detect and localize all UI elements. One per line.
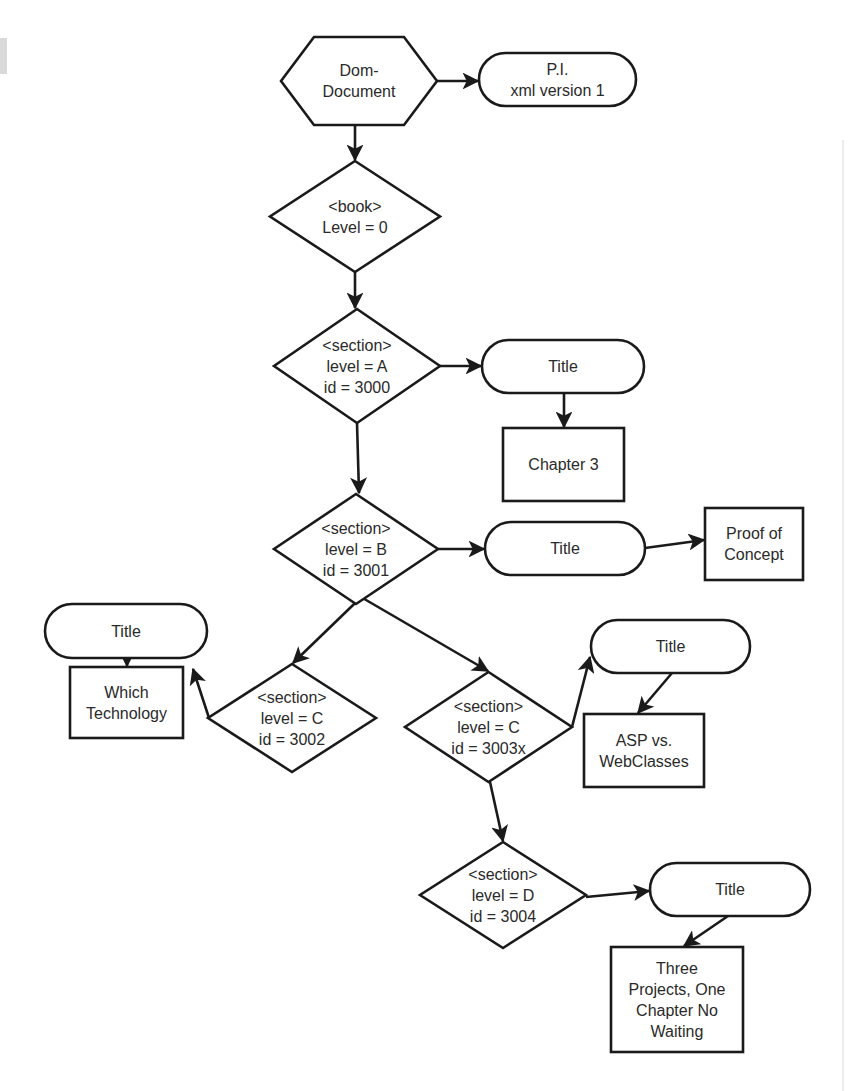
node-ch3: Chapter 3 <box>503 428 624 501</box>
node-secD: <section>level = Did = 3004 <box>420 842 586 948</box>
node-threeProj: ThreeProjects, OneChapter NoWaiting <box>611 947 743 1052</box>
node-label-line: Title <box>550 540 580 557</box>
node-label-line: id = 3002 <box>259 731 325 748</box>
node-label-line: WebClasses <box>599 753 689 770</box>
node-label-line: <book> <box>328 198 381 215</box>
rect-shape <box>584 714 704 787</box>
node-label-line: Document <box>323 83 396 100</box>
node-label-line: <section> <box>257 689 326 706</box>
node-asp: ASP vs.WebClasses <box>584 714 704 787</box>
node-label-line: Title <box>656 638 686 655</box>
arrow-secC2-to-secD <box>490 782 503 841</box>
node-label-line: level = B <box>325 541 387 558</box>
node-label-line: Which <box>104 684 148 701</box>
node-label-line: Projects, One <box>629 981 726 998</box>
node-titleD: Title <box>650 863 810 916</box>
arrow-titleC2-to-asp <box>638 673 672 713</box>
arrow-titleD-to-threeProj <box>684 916 728 946</box>
node-label-line: level = D <box>472 887 535 904</box>
arrow-secA-to-secB <box>357 423 359 493</box>
node-label-line: <section> <box>321 520 390 537</box>
node-whichTech: WhichTechnology <box>70 667 183 738</box>
node-label-line: Level = 0 <box>322 219 387 236</box>
node-label-line: Chapter No <box>636 1002 718 1019</box>
node-secC2: <section>level = Cid = 3003x <box>405 672 572 782</box>
node-label-line: Concept <box>724 546 784 563</box>
node-label-line: Chapter 3 <box>528 456 598 473</box>
hexagon-shape <box>281 37 437 125</box>
node-label-line: level = A <box>327 358 388 375</box>
node-label-line: Proof of <box>726 525 783 542</box>
node-label-line: level = C <box>457 719 520 736</box>
arrow-secC1-to-titleC1 <box>193 669 209 718</box>
node-label-line: id = 3003x <box>451 740 525 757</box>
node-label-line: Technology <box>86 705 167 722</box>
rect-shape <box>705 508 803 580</box>
node-label-line: id = 3004 <box>470 908 536 925</box>
rect-shape <box>70 667 183 738</box>
arrow-secD-to-titleD <box>586 891 649 897</box>
node-poc: Proof ofConcept <box>705 508 803 580</box>
node-label-line: Dom- <box>339 62 378 79</box>
node-label-line: level = C <box>261 710 324 727</box>
node-titleC1: Title <box>45 604 207 658</box>
node-label-line: Waiting <box>651 1023 704 1040</box>
node-label-line: Title <box>548 358 578 375</box>
diamond-shape <box>270 161 440 272</box>
arrow-titleB-to-poc <box>645 540 704 548</box>
node-secC1: <section>level = Cid = 3002 <box>208 664 376 772</box>
node-titleA: Title <box>482 340 644 393</box>
node-label-line: <section> <box>454 698 523 715</box>
node-secA: <section>level = Aid = 3000 <box>274 309 440 423</box>
node-label-line: <section> <box>468 866 537 883</box>
node-label-line: <section> <box>322 337 391 354</box>
flowchart-canvas: Dom-DocumentP.I.xml version 1<book>Level… <box>0 0 857 1091</box>
node-label-line: xml version 1 <box>510 82 604 99</box>
node-dom: Dom-Document <box>281 37 437 125</box>
node-label-line: Three <box>656 960 698 977</box>
node-label-line: ASP vs. <box>616 732 673 749</box>
node-label-line: P.I. <box>547 61 569 78</box>
node-label-line: Title <box>111 623 141 640</box>
node-secB: <section>level = Bid = 3001 <box>274 494 438 604</box>
node-pi: P.I.xml version 1 <box>479 53 636 106</box>
node-label-line: Title <box>715 881 745 898</box>
node-book: <book>Level = 0 <box>270 161 440 272</box>
node-titleC2: Title <box>591 620 750 673</box>
node-layer: Dom-DocumentP.I.xml version 1<book>Level… <box>45 37 810 1052</box>
node-titleB: Title <box>485 522 645 575</box>
node-label-line: id = 3000 <box>324 379 390 396</box>
node-label-line: id = 3001 <box>323 562 389 579</box>
